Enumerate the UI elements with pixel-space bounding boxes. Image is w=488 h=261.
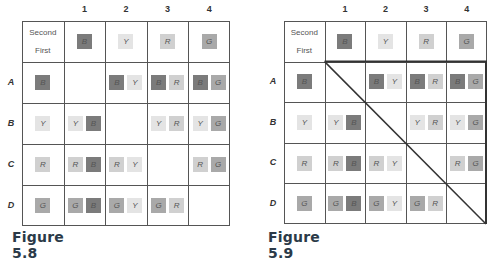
figure-caption: Figure 5.9 [268,229,320,261]
